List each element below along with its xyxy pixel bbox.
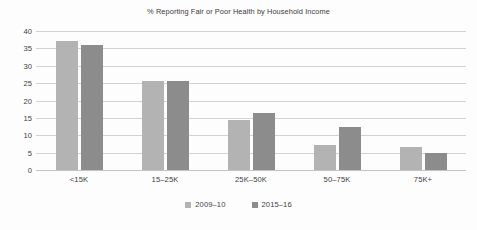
legend-entry: 2009–10 xyxy=(185,200,225,209)
bar-group xyxy=(122,31,208,170)
x-tick-label: <15K xyxy=(36,175,122,184)
bar-group xyxy=(36,31,122,170)
y-tick-label: 5 xyxy=(6,148,32,157)
y-tick-label: 10 xyxy=(6,131,32,140)
bar xyxy=(228,120,250,170)
bar-chart-figure: % Reporting Fair or Poor Health by House… xyxy=(0,0,477,230)
y-tick-label: 20 xyxy=(6,96,32,105)
gridline-0 xyxy=(36,170,466,171)
bar xyxy=(81,45,103,170)
chart-title: % Reporting Fair or Poor Health by House… xyxy=(0,7,477,16)
x-tick-label: 25K–50K xyxy=(208,175,294,184)
bar-group xyxy=(294,31,380,170)
x-axis: <15K15–25K25K–50K50–75K75K+ xyxy=(36,175,466,184)
x-tick-label: 15–25K xyxy=(122,175,208,184)
bar-group xyxy=(380,31,466,170)
bar xyxy=(142,81,164,170)
bar xyxy=(167,81,189,170)
chart-legend: 2009–102015–16 xyxy=(0,200,477,209)
bar xyxy=(56,41,78,170)
bar-group xyxy=(208,31,294,170)
y-tick-label: 15 xyxy=(6,113,32,122)
bars-layer xyxy=(36,31,466,170)
legend-entry: 2015–16 xyxy=(252,200,292,209)
x-tick-label: 50–75K xyxy=(294,175,380,184)
legend-label: 2015–16 xyxy=(262,200,292,209)
bar xyxy=(253,113,275,170)
bar xyxy=(425,153,447,170)
bar xyxy=(314,145,336,170)
y-tick-label: 35 xyxy=(6,44,32,53)
legend-swatch-icon xyxy=(252,202,258,208)
y-axis: 4035302520151050 xyxy=(0,31,32,170)
y-tick-label: 30 xyxy=(6,61,32,70)
legend-label: 2009–10 xyxy=(195,200,225,209)
x-tick-label: 75K+ xyxy=(380,175,466,184)
y-tick-label: 25 xyxy=(6,79,32,88)
y-tick-label: 0 xyxy=(6,166,32,175)
bar xyxy=(339,127,361,170)
legend-swatch-icon xyxy=(185,202,191,208)
bar xyxy=(400,147,422,170)
y-tick-label: 40 xyxy=(6,27,32,36)
